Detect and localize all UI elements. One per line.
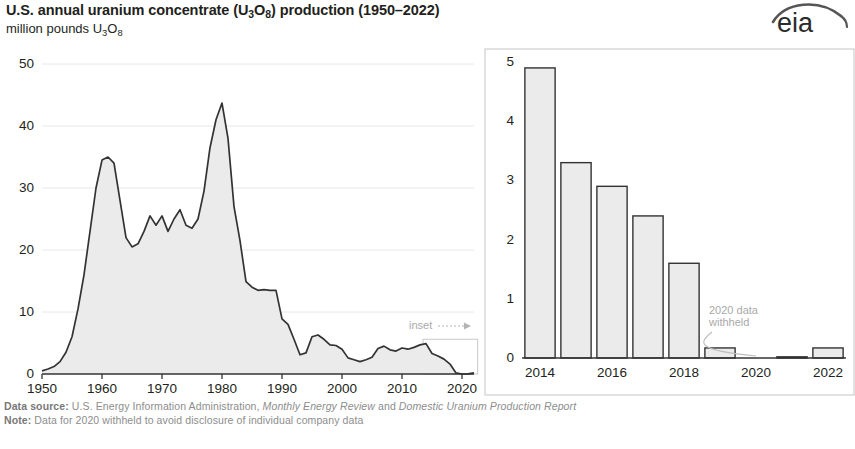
main-x-tick-label: 1960 [74,382,130,395]
main-x-tick-label: 1990 [254,382,310,395]
chart-page: U.S. annual uranium concentrate (U3O8) p… [0,0,855,449]
withheld-annotation-line1: 2020 data [709,304,758,316]
inset-x-tick-label: 2018 [654,366,714,379]
withheld-annotation-label: 2020 datawithheld [709,304,758,328]
main-area-chart: 0102030405019501960197019801990200020102… [0,44,482,396]
main-x-tick-label: 1970 [134,382,190,395]
inset-x-tick-label: 2020 [726,366,786,379]
main-y-tick-label: 0 [0,367,34,380]
main-x-tick-label: 1980 [194,382,250,395]
data-source-note: Data source: U.S. Energy Information Adm… [4,400,576,412]
axis-unit-label: million pounds U3O8 [6,21,123,38]
eia-logo-text: eia [777,10,813,37]
inset-y-tick-label: 0 [484,351,514,364]
main-y-tick-label: 20 [0,243,34,256]
page-title: U.S. annual uranium concentrate (U3O8) p… [6,2,439,20]
inset-annotation-label: inset [409,319,432,331]
inset-y-tick-label: 2 [484,233,514,246]
inset-x-tick-label: 2014 [510,366,570,379]
withheld-note: Note: Data for 2020 withheld to avoid di… [4,414,363,426]
withheld-annotation-line2: withheld [709,316,758,328]
inset-x-tick-label: 2022 [798,366,855,379]
inset-y-tick-label: 1 [484,292,514,305]
inset-bar-chart: 012345201420162018202020222020 datawithh… [484,48,855,396]
main-x-tick-label: 2020 [434,382,490,395]
main-y-tick-label: 40 [0,119,34,132]
inset-y-tick-label: 4 [484,114,514,127]
main-x-tick-label: 2000 [314,382,370,395]
main-x-tick-label: 1950 [14,382,70,395]
main-x-tick-label: 2010 [374,382,430,395]
inset-y-tick-label: 3 [484,173,514,186]
main-y-tick-label: 30 [0,181,34,194]
inset-x-tick-label: 2016 [582,366,642,379]
eia-logo: eia [771,0,849,44]
main-y-tick-label: 50 [0,57,34,70]
inset-y-tick-label: 5 [484,55,514,68]
main-y-tick-label: 10 [0,305,34,318]
